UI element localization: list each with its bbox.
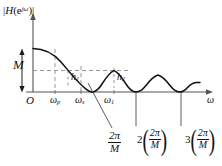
- side-lobe-2-curve: [136, 75, 180, 92]
- null-leader-lines-group: [88, 83, 181, 128]
- fraction-denominator: M: [149, 140, 161, 151]
- side-lobe-3-partial-curve: [180, 82, 200, 92]
- fraction-denominator: M: [197, 140, 209, 151]
- origin-label: O: [26, 95, 34, 106]
- null-label-1: 2π M: [108, 130, 121, 155]
- fraction-2pi-over-m: 2π M: [108, 130, 121, 155]
- h1-lobe-label: h1: [71, 72, 79, 83]
- null-label-3: 3( 2π M ): [185, 128, 215, 151]
- omega-p-tick-label: ωp: [50, 95, 60, 106]
- right-paren: ): [161, 125, 167, 154]
- null-label-2: 2( 2π M ): [137, 128, 167, 151]
- left-paren: (: [191, 125, 197, 154]
- level-m-label: M: [13, 58, 24, 71]
- fraction-2pi-over-m-3: 2π M: [197, 128, 209, 151]
- magnitude-response-figure: |H(ejω)| M O ωp ωs ω1 ω h1 h2 2π M 2( 2π…: [0, 0, 222, 166]
- m-arrow-head-down: [19, 86, 24, 93]
- m-arrow-head-up: [19, 49, 24, 56]
- y-axis-label: |H(ejω)|: [3, 5, 34, 16]
- right-paren: ): [209, 125, 215, 154]
- h2-lobe-label: h2: [117, 72, 125, 83]
- left-paren: (: [143, 125, 149, 154]
- fraction-denominator: M: [108, 143, 121, 155]
- x-axis-label: ω: [207, 95, 214, 105]
- omega-1-tick-label: ω1: [104, 95, 114, 106]
- omega-s-tick-label: ωs: [75, 95, 84, 106]
- fraction-numerator: 2π: [108, 130, 121, 143]
- fraction-2pi-over-m-2: 2π M: [149, 128, 161, 151]
